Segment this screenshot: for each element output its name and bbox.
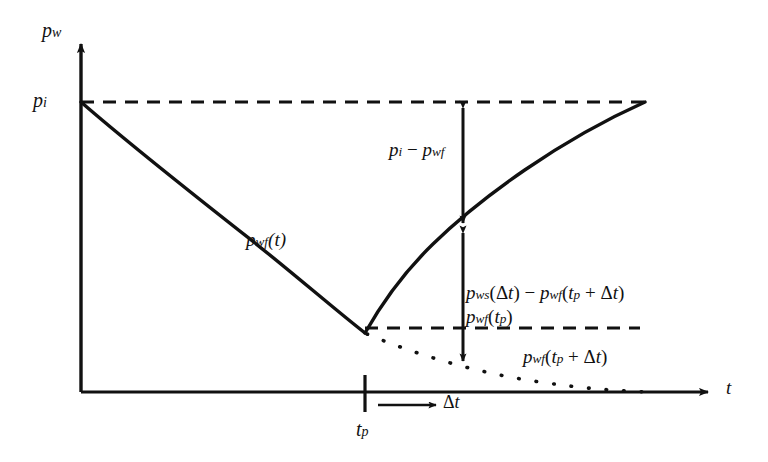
y-axis-label: pw xyxy=(42,20,61,40)
extrapolated-pressure-label: pwf(tp + Δt) xyxy=(523,347,607,366)
drawdown-curve xyxy=(81,102,365,333)
drawdown-curve-label: pwf(t) xyxy=(246,230,286,249)
x-axis-label: t xyxy=(726,378,731,397)
initial-pressure-label: pi xyxy=(33,90,47,110)
figure-canvas: pw pi t pwf(t) pi − pwf pws(Δt) − pwf(tp… xyxy=(0,0,768,462)
flowing-pressure-label: pwf(tp) xyxy=(466,307,513,326)
drawdown-difference-label: pi − pwf xyxy=(389,140,445,159)
pressure-transient-plot xyxy=(0,0,768,462)
extrapolated-drawdown-curve xyxy=(367,334,650,392)
buildup-difference-label: pws(Δt) − pwf(tp + Δt) xyxy=(466,283,624,302)
shutin-time-label: Δt xyxy=(443,393,460,411)
producing-time-label: tp xyxy=(356,419,369,439)
